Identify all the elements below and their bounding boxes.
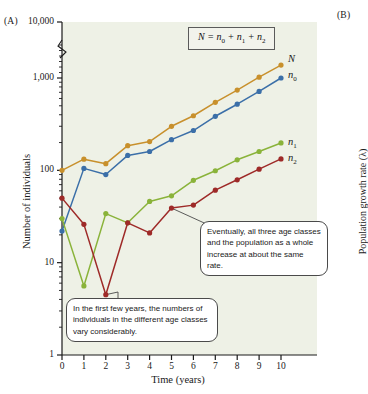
series-label-n2-sub: 2 xyxy=(293,158,297,166)
equation-plus-1: + xyxy=(225,31,237,42)
x-tick-label: 2 xyxy=(98,361,114,371)
equation-lhs: N xyxy=(198,31,205,42)
y-tick-label: 100 xyxy=(12,164,54,174)
equation-plus-2: + xyxy=(245,31,257,42)
x-tick-label: 0 xyxy=(54,361,70,371)
equation-term-n2-sub: 2 xyxy=(262,37,266,45)
x-tick-label: 4 xyxy=(142,361,158,371)
series-label-n2: n2 xyxy=(288,152,297,166)
callout-early-variation: In the first few years, the numbers of i… xyxy=(66,298,218,342)
x-tick-label: 3 xyxy=(120,361,136,371)
x-tick-label: 7 xyxy=(207,361,223,371)
series-label-N: N xyxy=(288,53,295,64)
equation-box: N = n0 + n1 + n2 xyxy=(188,27,275,50)
series-label-n1: n1 xyxy=(288,136,297,150)
series-label-n0-sub: 0 xyxy=(293,75,297,83)
y-tick-label: 1,000 xyxy=(12,72,54,82)
equation-equals: = xyxy=(205,31,217,42)
x-tick-label: 10 xyxy=(273,361,289,371)
x-tick-label: 5 xyxy=(164,361,180,371)
x-tick-label: 6 xyxy=(185,361,201,371)
series-label-N-base: N xyxy=(288,53,295,64)
x-tick-label: 1 xyxy=(76,361,92,371)
series-label-n1-sub: 1 xyxy=(293,142,297,150)
x-tick-label: 8 xyxy=(229,361,245,371)
x-tick-label: 9 xyxy=(251,361,267,371)
y-tick-label: 10 xyxy=(12,257,54,267)
y-tick-label: 10,000 xyxy=(12,16,54,26)
y-tick-label: 1 xyxy=(12,349,54,359)
callout-eventual-rate: Eventually, all three age classes and th… xyxy=(200,221,328,276)
series-label-n0: n0 xyxy=(288,69,297,83)
